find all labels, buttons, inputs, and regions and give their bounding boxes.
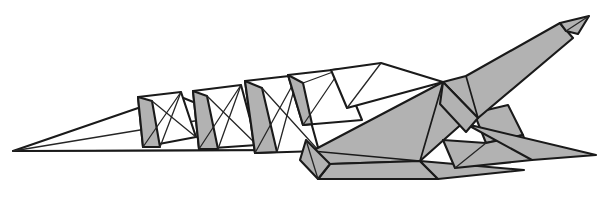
- origami-stegosaurus-drawing: [0, 0, 599, 197]
- origami-illustration: [0, 0, 599, 197]
- body-underside-facet: [318, 161, 438, 179]
